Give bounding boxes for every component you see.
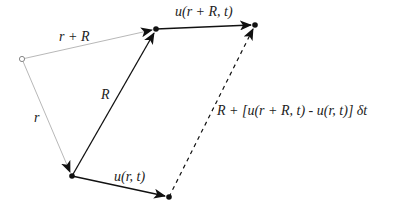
- label-R-new: R + [u(r + R, t) - u(r, t)] δt: [217, 104, 367, 118]
- point-u-r-plus-R-tip: [252, 22, 258, 28]
- label-R: R: [101, 88, 110, 102]
- vector-R: [72, 33, 154, 176]
- point-r-plus-R-tip: [153, 26, 159, 32]
- label-u-r-plus-R: u(r + R, t): [175, 5, 233, 19]
- label-r: r: [34, 111, 39, 125]
- vector-r: [22, 59, 70, 172]
- label-u-r: u(r, t): [114, 170, 145, 184]
- origin-point: [19, 56, 24, 61]
- vector-u-r-plus-R: [156, 25, 251, 29]
- point-u-r-tip: [166, 194, 172, 200]
- vector-diagram: r + R u(r + R, t) R r u(r, t) R + [u(r +…: [0, 0, 402, 213]
- label-r-plus-R: r + R: [59, 30, 89, 44]
- point-r-tip: [69, 173, 75, 179]
